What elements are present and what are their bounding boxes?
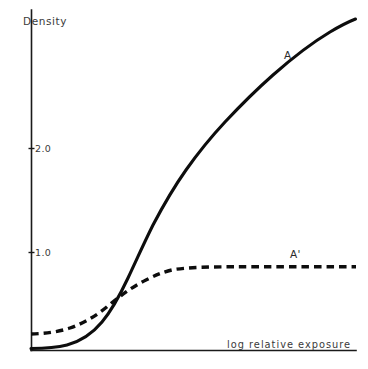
- y-axis-title: Density: [23, 15, 67, 27]
- y-tick-label-1-0: 1.0: [35, 247, 51, 258]
- curve-a: [31, 19, 356, 349]
- characteristic-curve-plot: Density 2.0 1.0 log relative exposure A …: [0, 0, 368, 369]
- curve-a-label: A: [284, 49, 292, 61]
- curve-a-prime-label: A': [290, 248, 301, 260]
- curve-a-prime: [31, 267, 356, 334]
- x-axis-title: log relative exposure: [227, 339, 351, 350]
- y-tick-label-2-0: 2.0: [35, 143, 51, 154]
- chart-canvas: Density 2.0 1.0 log relative exposure A …: [0, 0, 368, 369]
